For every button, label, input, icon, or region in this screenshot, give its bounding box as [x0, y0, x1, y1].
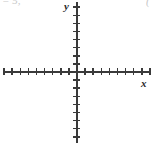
- x-axis-tick: [3, 68, 5, 75]
- x-axis-tick: [68, 68, 70, 75]
- x-axis-tick: [20, 68, 22, 75]
- y-axis-tick: [73, 96, 80, 98]
- y-axis-label: y: [64, 1, 69, 12]
- x-axis-tick: [92, 68, 94, 75]
- coordinate-plane-figure: = 5, ( y x: [0, 0, 160, 150]
- x-axis-tick: [133, 68, 135, 75]
- y-axis-tick: [73, 23, 80, 25]
- y-axis-tick: [73, 63, 80, 65]
- x-axis-tick: [44, 68, 46, 75]
- y-axis-tick: [73, 120, 80, 122]
- x-axis-tick: [101, 68, 103, 75]
- y-axis-tick: [73, 55, 80, 57]
- x-axis-tick: [141, 68, 143, 75]
- cropped-text-fragment-right: (: [146, 0, 150, 7]
- x-axis-tick: [11, 68, 13, 75]
- x-axis-tick: [109, 68, 111, 75]
- y-axis-tick: [73, 31, 80, 33]
- x-axis-tick: [117, 68, 119, 75]
- y-axis-tick: [73, 15, 80, 17]
- x-axis-tick: [149, 68, 151, 75]
- cropped-text-fragment-left: = 5,: [2, 0, 20, 6]
- y-axis-tick: [73, 104, 80, 106]
- y-axis-tick: [73, 39, 80, 41]
- y-axis-tick: [73, 6, 80, 8]
- y-axis-tick: [73, 87, 80, 89]
- y-axis-tick: [73, 112, 80, 114]
- x-axis-tick: [28, 68, 30, 75]
- x-axis-label: x: [141, 78, 147, 89]
- x-axis-tick: [60, 68, 62, 75]
- y-axis-tick: [73, 136, 80, 138]
- y-axis-tick: [73, 79, 80, 81]
- x-axis-tick: [125, 68, 127, 75]
- x-axis-tick: [84, 68, 86, 75]
- x-axis-tick: [52, 68, 54, 75]
- y-axis-tick: [73, 47, 80, 49]
- y-axis-tick: [73, 128, 80, 130]
- x-axis-tick: [36, 68, 38, 75]
